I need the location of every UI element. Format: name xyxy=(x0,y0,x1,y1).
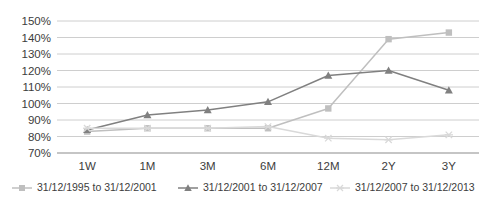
gridlines xyxy=(57,21,479,153)
y-axis-tick-label: 110% xyxy=(22,81,51,93)
y-axis-tick-label: 70% xyxy=(28,147,51,159)
data-point-marker-x xyxy=(384,137,392,143)
x-axis-tick-label: 3M xyxy=(200,160,216,172)
line-chart-svg: 150%140%130%120%110%100%90%80%70% 1W1M3M… xyxy=(0,0,486,201)
data-series-group xyxy=(83,29,453,143)
data-point-marker-square xyxy=(325,105,331,111)
legend-label: 31/12/2007 to 31/12/2013 xyxy=(355,181,475,193)
data-point-marker-triangle xyxy=(264,98,272,105)
data-point-marker-x xyxy=(336,185,344,191)
x-axis-tick-labels: 1W1M3M6M12M2Y3Y xyxy=(79,160,457,172)
y-axis-tick-label: 130% xyxy=(22,48,51,60)
chart-legend: 31/12/1995 to 31/12/200131/12/2001 to 31… xyxy=(12,181,475,193)
plot-area: 150%140%130%120%110%100%90%80%70% 1W1M3M… xyxy=(0,0,486,201)
data-point-marker-square xyxy=(385,36,391,42)
y-axis-tick-label: 80% xyxy=(28,131,51,143)
y-axis-tick-label: 150% xyxy=(22,15,51,27)
data-point-marker-square xyxy=(19,185,25,191)
y-axis-tick-labels: 150%140%130%120%110%100%90%80%70% xyxy=(22,15,51,159)
legend-item-3[interactable]: 31/12/2007 to 31/12/2013 xyxy=(330,181,475,193)
x-axis-tick-label: 6M xyxy=(260,160,276,172)
chart-container: 150%140%130%120%110%100%90%80%70% 1W1M3M… xyxy=(0,0,486,201)
y-axis-tick-label: 120% xyxy=(22,65,51,77)
data-series-2 xyxy=(83,67,453,134)
x-axis-tick-label: 12M xyxy=(317,160,339,172)
legend-label: 31/12/2001 to 31/12/2007 xyxy=(203,181,323,193)
legend-item-2[interactable]: 31/12/2001 to 31/12/2007 xyxy=(178,181,323,193)
y-axis-tick-label: 90% xyxy=(28,114,51,126)
x-axis-tick-label: 2Y xyxy=(382,160,396,172)
data-series-3 xyxy=(83,123,453,143)
data-point-marker-square xyxy=(446,29,452,35)
data-series-1 xyxy=(84,29,452,134)
y-axis-tick-label: 100% xyxy=(22,98,51,110)
legend-item-1[interactable]: 31/12/1995 to 31/12/2001 xyxy=(12,181,157,193)
x-axis-tick-label: 3Y xyxy=(442,160,456,172)
x-axis-tick-label: 1M xyxy=(139,160,155,172)
y-axis-tick-label: 140% xyxy=(22,32,51,44)
data-point-marker-x xyxy=(445,132,453,138)
data-point-marker-x xyxy=(324,135,332,141)
x-axis-tick-label: 1W xyxy=(79,160,96,172)
legend-label: 31/12/1995 to 31/12/2001 xyxy=(37,181,157,193)
